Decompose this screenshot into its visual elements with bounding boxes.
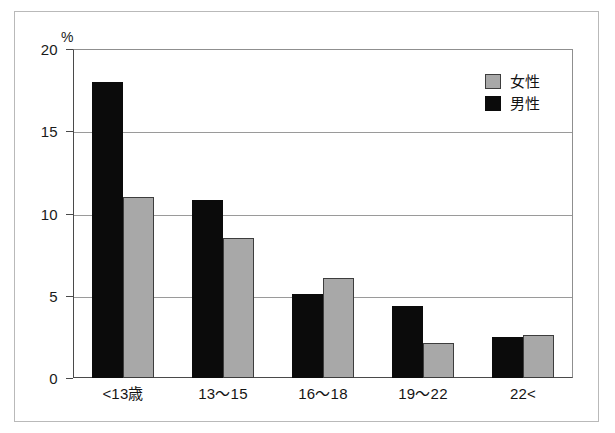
bar (223, 238, 254, 378)
bar (123, 197, 154, 378)
bar-chart-figure: % 05101520 <13歳13～1516～1819～2222< 女性男性 (0, 0, 615, 433)
legend-label: 女性 (510, 74, 540, 89)
legend-item: 女性 (485, 70, 565, 92)
legend-swatch-male (485, 96, 501, 111)
x-axis-tick-label: 22< (463, 386, 583, 401)
bar (492, 337, 523, 378)
bar (92, 82, 123, 378)
legend-item: 男性 (485, 92, 565, 114)
bar (423, 343, 454, 378)
chart-legend: 女性男性 (485, 70, 565, 114)
bar (523, 335, 554, 378)
legend-label: 男性 (510, 96, 540, 111)
bar (292, 294, 323, 378)
bar (392, 306, 423, 378)
bar (323, 278, 354, 378)
bars-layer (0, 0, 615, 433)
legend-swatch-female (485, 74, 501, 89)
bar (192, 200, 223, 378)
